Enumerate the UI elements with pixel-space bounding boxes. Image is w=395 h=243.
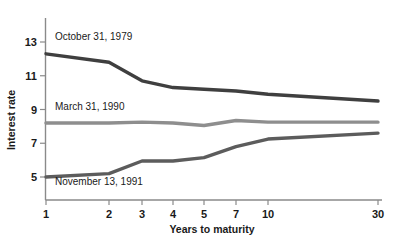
series-label-3: November 13, 1991 — [55, 176, 143, 187]
y-tick-label: 5 — [31, 171, 37, 183]
series-line-3 — [46, 133, 378, 177]
series-label-1: October 31, 1979 — [55, 31, 133, 42]
chart-canvas: 1311975 1234571030 Interest rate Years t… — [0, 0, 395, 243]
series-line-1 — [46, 54, 378, 101]
x-tick-label: 3 — [139, 208, 145, 220]
interest-rate-yield-curve-chart: 1311975 1234571030 Interest rate Years t… — [0, 0, 395, 243]
x-tick-label: 30 — [372, 208, 384, 220]
x-tick-label: 1 — [43, 208, 49, 220]
x-axis-title: Years to maturity — [169, 223, 254, 235]
x-axis-tick-labels: 1234571030 — [43, 208, 384, 220]
x-tick-label: 5 — [201, 208, 207, 220]
series-line-2 — [46, 120, 378, 125]
series-label-2: March 31, 1990 — [55, 101, 125, 112]
y-axis-ticks — [40, 42, 46, 177]
x-axis-ticks — [46, 200, 378, 205]
y-tick-label: 11 — [25, 70, 37, 82]
y-tick-label: 9 — [31, 104, 37, 116]
y-axis-title: Interest rate — [5, 90, 17, 150]
series-lines — [46, 54, 378, 177]
series-inline-labels: October 31, 1979March 31, 1990November 1… — [55, 31, 143, 186]
x-tick-label: 7 — [233, 208, 239, 220]
x-tick-label: 10 — [262, 208, 274, 220]
y-tick-label: 13 — [25, 36, 37, 48]
y-axis-tick-labels: 1311975 — [25, 36, 37, 183]
x-tick-label: 2 — [106, 208, 112, 220]
x-tick-label: 4 — [170, 208, 177, 220]
y-tick-label: 7 — [31, 137, 37, 149]
